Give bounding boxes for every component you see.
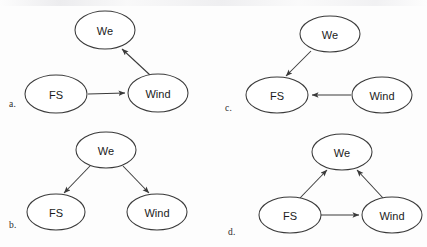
node-fs-label: FS bbox=[283, 210, 297, 222]
node-wind-label: Wind bbox=[379, 210, 404, 222]
edge-wind-to-we bbox=[357, 170, 383, 198]
node-fs-label: FS bbox=[49, 89, 63, 101]
edge-fs-to-we bbox=[300, 170, 327, 198]
node-fs-label: FS bbox=[270, 90, 284, 102]
panel-c: We FS Wind c. bbox=[214, 0, 427, 124]
panel-a-letter: a. bbox=[9, 99, 16, 109]
edge-we-to-fs bbox=[286, 51, 311, 76]
node-we-label: We bbox=[322, 29, 338, 41]
node-wind-label: Wind bbox=[144, 207, 169, 219]
panel-a: We FS Wind a. bbox=[0, 0, 214, 124]
panel-b: We FS Wind b. bbox=[0, 124, 214, 247]
panel-c-letter: c. bbox=[225, 103, 232, 113]
node-we-label: We bbox=[334, 147, 350, 159]
node-we-label: We bbox=[98, 145, 114, 157]
edge-wind-to-we bbox=[122, 49, 150, 75]
edge-fs-to-wind bbox=[88, 93, 125, 94]
figure-canvas: We FS Wind a. We FS Wind bbox=[0, 0, 427, 247]
node-we-label: We bbox=[97, 25, 113, 37]
node-wind-label: Wind bbox=[369, 90, 394, 102]
panel-b-letter: b. bbox=[9, 220, 17, 230]
edge-we-to-fs bbox=[64, 166, 90, 193]
node-wind-label: Wind bbox=[145, 88, 170, 100]
node-fs-label: FS bbox=[49, 207, 63, 219]
panel-d-letter: d. bbox=[228, 227, 236, 237]
panel-d: We FS Wind d. bbox=[214, 124, 427, 247]
edge-we-to-wind bbox=[123, 166, 149, 193]
